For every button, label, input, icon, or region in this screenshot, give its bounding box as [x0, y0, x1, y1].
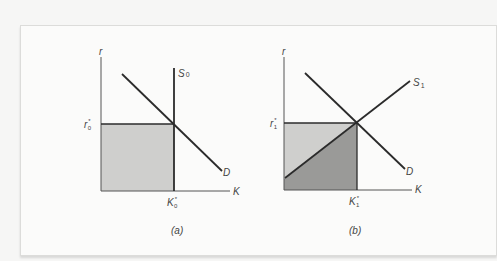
panel-a: r K S0 D r*0 K*0 (a)	[84, 46, 241, 236]
panel-b-caption: (b)	[349, 225, 361, 236]
panel-a-rent-area	[101, 124, 174, 191]
panel-b-supply-label: S1	[413, 77, 425, 89]
panel-b-x-axis-label: K	[415, 184, 423, 195]
panel-a-y-axis-label: r	[99, 46, 103, 57]
panel-a-x-axis-label: K	[233, 186, 241, 197]
panel-a-demand-label: D	[223, 167, 230, 178]
panel-b-y-axis-label: r	[282, 46, 286, 57]
panel-b-demand-label: D	[406, 166, 413, 177]
panel-b-capital-label: K*1	[349, 195, 360, 208]
panel-a-rate-label: r*0	[84, 118, 92, 131]
panel-b-rate-label: r*1	[270, 117, 278, 130]
panel-b: r K S1 D r*1 K*1 (b)	[270, 46, 425, 236]
panel-a-caption: (a)	[171, 225, 183, 236]
panel-a-capital-label: K*0	[167, 196, 178, 209]
panel-a-supply-label: S0	[178, 68, 190, 79]
